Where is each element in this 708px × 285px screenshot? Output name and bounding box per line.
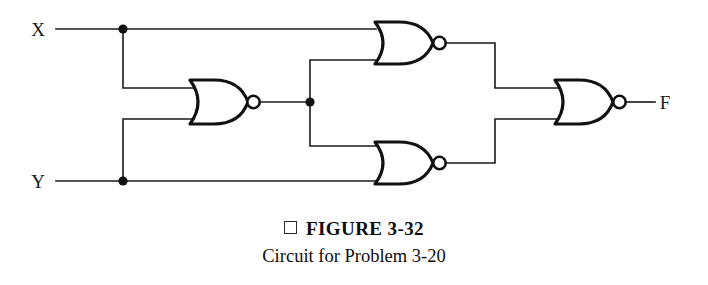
figure-caption-description: Circuit for Problem 3-20: [0, 244, 708, 269]
nor-gate-1-bubble: [247, 96, 259, 108]
input-label-x: X: [31, 19, 45, 40]
junction-dot-nor1-output: [305, 97, 314, 106]
wire-y-branch-to-nor1: [123, 119, 193, 181]
input-label-y: Y: [31, 171, 45, 192]
nor-gate-4-bubble: [613, 96, 625, 108]
figure-number-label: FIGURE 3-32: [306, 218, 424, 239]
wire-nor2-to-nor4: [446, 43, 558, 88]
nor-gate-2-bubble: [433, 37, 445, 49]
figure-caption-title: FIGURE 3-32: [0, 216, 708, 242]
square-bullet-icon: [284, 221, 297, 234]
nor-gate-3-body: [375, 142, 433, 184]
output-label-f: F: [660, 92, 671, 113]
nor-gate-2-top: [375, 22, 446, 64]
nor-gate-2-body: [375, 22, 433, 64]
circuit-diagram: X Y F: [0, 0, 708, 215]
wire-x-branch-to-nor1: [123, 29, 193, 88]
nor-gate-4-output: [555, 80, 626, 124]
nor-gate-1: [190, 80, 260, 124]
junction-dot-x: [118, 24, 127, 33]
nor-gate-3-bubble: [433, 157, 445, 169]
wire-nor1-to-nor2: [310, 60, 378, 102]
nor-gate-3-bottom: [375, 142, 446, 184]
nor-gate-4-body: [555, 80, 613, 124]
junction-dot-y: [118, 176, 127, 185]
wire-nor1-to-nor3: [310, 102, 378, 146]
figure-page: X Y F FIGURE 3-32 Circuit for Problem 3-…: [0, 0, 708, 285]
figure-caption: FIGURE 3-32 Circuit for Problem 3-20: [0, 216, 708, 269]
wire-nor3-to-nor4: [446, 119, 558, 163]
nor-gate-1-body: [190, 80, 248, 124]
